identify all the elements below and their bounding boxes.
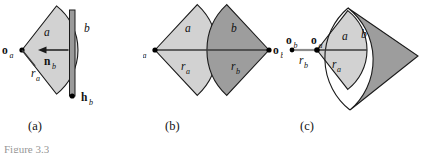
label-o-a: o — [311, 34, 317, 46]
label-n-b: n — [44, 55, 51, 67]
figure-container: o a a r a b n b h b o a o b a b r a r b — [0, 0, 428, 153]
label-h-b: h — [81, 91, 88, 103]
label-h-b-sub: b — [89, 98, 93, 107]
panel-b-diagram: o a o b a b r a r b — [143, 0, 283, 118]
label-o-a-sub: a — [319, 41, 323, 50]
figure-number-label: Figure 3.3 — [4, 144, 49, 153]
label-r-b-sub: b — [236, 67, 240, 76]
label-o-b: o — [286, 34, 292, 46]
label-region-b: b — [361, 28, 367, 40]
caption-panel-a: (a) — [28, 119, 42, 134]
label-o-a: o — [2, 44, 8, 56]
label-o-b-sub: b — [294, 41, 298, 50]
label-region-a: a — [185, 22, 191, 34]
caption-panel-c: (c) — [300, 119, 314, 134]
label-region-a: a — [44, 26, 50, 38]
caption-panel-b: (b) — [165, 119, 180, 134]
segment-b-bar — [70, 10, 76, 96]
panel-c-diagram: o b o a r b a b r a — [278, 0, 428, 118]
point-h-b-dot — [70, 93, 75, 98]
point-o-a-dot — [152, 47, 157, 52]
label-r-a-sub: a — [186, 67, 190, 76]
label-o-a-sub: a — [10, 51, 14, 60]
label-r-a-sub: a — [36, 74, 40, 83]
label-region-a: a — [342, 30, 348, 42]
label-o-a-sub: a — [143, 51, 147, 60]
label-region-b: b — [231, 22, 237, 34]
panel-a-diagram: o a a r a b n b h b — [0, 0, 143, 118]
label-r-a-sub: a — [337, 65, 341, 74]
label-r-b-sub: b — [304, 61, 308, 70]
label-n-b-sub: b — [52, 62, 56, 71]
point-o-b-dot — [266, 47, 271, 52]
label-segment-b: b — [84, 22, 90, 34]
